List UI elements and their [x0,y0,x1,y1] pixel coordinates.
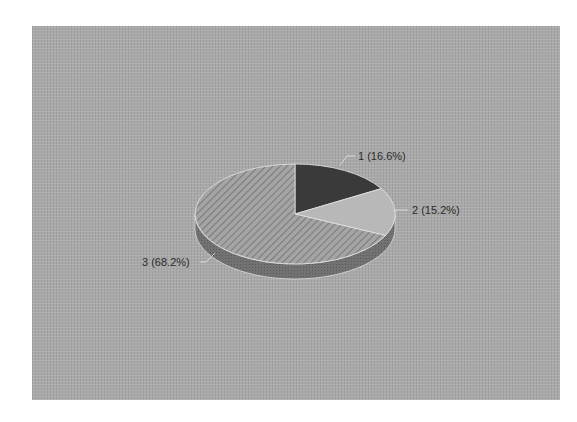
slice-label-2: 2 (15.2%) [412,204,460,216]
pie-chart: 1 (16.6%) 2 (15.2%) 3 (68.2%) [0,0,577,422]
leader-line-2 [395,210,408,212]
slice-label-3: 3 (68.2%) [142,256,190,268]
slice-label-1: 1 (16.6%) [358,150,406,162]
leader-line-1 [340,156,355,165]
